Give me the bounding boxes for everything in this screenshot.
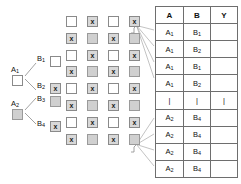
design-table: A B Y A1B1 A1B2 A1B1 A1B2 |||A2B4 A2B4 A… [155,6,238,178]
grid-checkbox-r2-c1-mark: x [67,34,76,43]
grid-checkbox-r7-c2-mark: x [88,118,97,127]
table-cell-y-row9 [211,160,238,177]
table-row: A2B4 [156,143,238,160]
table-cell-b-row3: B1 [184,58,211,75]
grid-checkbox-r6-c1[interactable]: x [66,100,77,111]
table-row: A1B2 [156,41,238,58]
table-row: ||| [156,92,238,109]
tree-label-a1: A1 [11,66,19,75]
grid-checkbox-r6-c2[interactable] [87,100,98,111]
table-cell-a-row7: A2 [156,126,184,143]
table-cell-y-row1 [211,24,238,41]
table-cell-y-row3 [211,58,238,75]
table-cell-y-row8 [211,143,238,160]
table-header-row: A B Y [156,7,238,24]
grid-checkbox-r6-c4[interactable] [129,100,140,111]
tree-checkbox-b3[interactable] [50,96,61,107]
table-row: A1B2 [156,75,238,92]
grid-checkbox-r8-c3[interactable]: x [108,134,119,145]
grid-checkbox-r4-c3-mark: x [109,67,118,76]
grid-checkbox-r6-c1-mark: x [67,101,76,110]
grid-checkbox-r3-c4[interactable]: x [129,50,140,61]
tree-checkbox-b1[interactable] [50,56,61,67]
grid-checkbox-r4-c2[interactable] [87,66,98,77]
table-row: A1B1 [156,24,238,41]
grid-checkbox-r7-c2[interactable]: x [87,117,98,128]
grid-checkbox-r3-c3[interactable] [108,50,119,61]
table-cell-a-row4: A1 [156,75,184,92]
grid-checkbox-r4-c1[interactable]: x [66,66,77,77]
tree-checkbox-b2-mark: x [51,84,60,93]
tree-checkbox-a1[interactable] [12,75,23,86]
table-cell-y-row7 [211,126,238,143]
table-cell-b-row2: B2 [184,41,211,58]
grid-checkbox-r4-c1-mark: x [67,67,76,76]
grid-checkbox-r5-c3[interactable] [108,83,119,94]
table-cell-b-row9: B4 [184,160,211,177]
table-cell-a-row5: | [156,92,184,109]
grid-checkbox-r1-c4-mark: x [130,17,139,26]
grid-checkbox-r5-c4[interactable]: x [129,83,140,94]
grid-checkbox-r1-c2-mark: x [88,17,97,26]
grid-checkbox-r8-c3-mark: x [109,135,118,144]
grid-checkbox-r7-c4[interactable]: x [129,117,140,128]
table-body: A1B1 A1B2 A1B1 A1B2 |||A2B4 A2B4 A2B4 A2… [156,24,238,178]
grid-checkbox-r7-c3[interactable] [108,117,119,128]
grid-checkbox-r4-c3[interactable]: x [108,66,119,77]
table-row: A1B1 [156,58,238,75]
tree-checkbox-a2[interactable] [12,109,23,120]
table-cell-a-row9: A2 [156,160,184,177]
table-cell-a-row8: A2 [156,143,184,160]
tree-checkbox-b2[interactable]: x [50,83,61,94]
tree-label-b2: B2 [37,82,45,91]
table-header-a: A [156,7,184,24]
grid-checkbox-r3-c4-mark: x [130,51,139,60]
table-header-y: Y [211,7,238,24]
grid-checkbox-r7-c4-mark: x [130,118,139,127]
grid-checkbox-r8-c2[interactable] [87,134,98,145]
grid-checkbox-r7-c1[interactable] [66,117,77,128]
table-cell-y-row6 [211,109,238,126]
grid-checkbox-r2-c3-mark: x [109,34,118,43]
grid-checkbox-r1-c4[interactable]: x [129,16,140,27]
table-cell-y-row4 [211,75,238,92]
grid-checkbox-r3-c1[interactable] [66,50,77,61]
table-cell-b-row7: B4 [184,126,211,143]
tree-label-b1: B1 [37,55,45,64]
grid-checkbox-r1-c2[interactable]: x [87,16,98,27]
grid-checkbox-r2-c4[interactable] [129,33,140,44]
tree-label-a2: A2 [11,100,19,109]
grid-checkbox-r2-c1[interactable]: x [66,33,77,44]
grid-checkbox-r1-c3[interactable] [108,16,119,27]
grid-checkbox-r5-c1[interactable] [66,83,77,94]
table-row: A2B4 [156,109,238,126]
grid-checkbox-r2-c3[interactable]: x [108,33,119,44]
grid-checkbox-r1-c1[interactable] [66,16,77,27]
grid-checkbox-r4-c4[interactable] [129,66,140,77]
table-cell-b-row4: B2 [184,75,211,92]
table-cell-b-row8: B4 [184,143,211,160]
table-cell-b-row6: B4 [184,109,211,126]
table-cell-b-row1: B1 [184,24,211,41]
grid-checkbox-r2-c2[interactable] [87,33,98,44]
table-cell-a-row2: A1 [156,41,184,58]
grid-checkbox-r8-c4[interactable] [129,134,140,145]
tree-checkbox-b4[interactable]: x [50,121,61,132]
grid-checkbox-r3-c2[interactable]: x [87,50,98,61]
grid-checkbox-r3-c2-mark: x [88,51,97,60]
table-header-b: B [184,7,211,24]
table-cell-a-row3: A1 [156,58,184,75]
grid-checkbox-r6-c3-mark: x [109,101,118,110]
grid-checkbox-r5-c2[interactable]: x [87,83,98,94]
grid-checkbox-r8-c1[interactable]: x [66,134,77,145]
tree-checkbox-b4-mark: x [51,122,60,131]
grid-checkbox-r5-c2-mark: x [88,84,97,93]
table-cell-b-row5: | [184,92,211,109]
table-cell-a-row1: A1 [156,24,184,41]
grid-checkbox-r6-c3[interactable]: x [108,100,119,111]
diagram-root: A1 A2 B1 B2 x B3 B4 x xxxxxxxxxxxxxxxx A… [0,0,241,184]
table-row: A2B4 [156,160,238,177]
table-row: A2B4 [156,126,238,143]
grid-checkbox-r8-c1-mark: x [67,135,76,144]
grid-checkbox-r5-c4-mark: x [130,84,139,93]
